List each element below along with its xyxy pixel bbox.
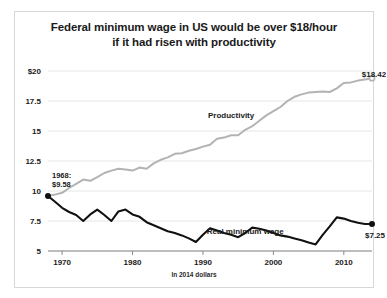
gridlines-group <box>48 71 372 221</box>
y-axis-tick-label: 5 <box>37 247 42 256</box>
y-axis-tick-label: 10 <box>32 187 41 196</box>
x-axis-tick-label: 2010 <box>335 258 353 267</box>
x-axis-labels-group: 19701980199020002010 <box>53 258 353 267</box>
wage-end-value: $7.25 <box>365 231 386 240</box>
y-axis-tick-label: 15 <box>32 127 41 136</box>
series-label-real-minimum-wage: Real minimum wage <box>207 227 284 236</box>
series-start-marker <box>45 193 51 199</box>
y-axis-tick-label: 17.5 <box>25 97 41 106</box>
productivity-end-value: $18.42 <box>362 70 387 79</box>
y-axis-tick-label: 7.5 <box>30 217 42 226</box>
start-annotation-value: $9.58 <box>52 180 71 189</box>
x-axis-group <box>48 251 372 255</box>
x-axis-tick-label: 1980 <box>124 258 142 267</box>
chart-figure: Federal minimum wage in US would be over… <box>0 0 387 298</box>
series-line-real-minimum-wage <box>48 196 372 244</box>
chart-footnote: In 2014 dollars <box>171 271 217 278</box>
start-annotation-year: 1968: <box>52 171 71 180</box>
series-line-productivity <box>48 78 372 196</box>
y-axis-labels-group: 57.51012.51517.5$20 <box>25 67 41 256</box>
x-axis-tick-label: 2000 <box>264 258 282 267</box>
series-end-marker <box>369 221 375 227</box>
x-axis-tick-label: 1970 <box>53 258 71 267</box>
line-chart-plot: 57.51012.51517.5$20 19701980199020002010… <box>0 0 387 298</box>
data-markers-group <box>45 76 375 227</box>
x-axis-tick-label: 1990 <box>194 258 212 267</box>
y-axis-tick-label: $20 <box>28 67 42 76</box>
series-label-productivity: Productivity <box>208 111 255 120</box>
y-axis-tick-label: 12.5 <box>25 157 41 166</box>
